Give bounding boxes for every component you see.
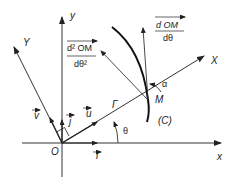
first-derivative-label: d OM dθ [155,17,185,43]
point-M-label: M [155,94,164,105]
svg-text:v: v [34,110,40,121]
polar-frame-diagram: x y X Y i j u v O θ Γ (C) [0,0,233,182]
svg-text:d OM: d OM [156,20,179,30]
alpha-label: α [162,79,167,89]
second-derivative-label: d² OM dθ² [67,41,97,69]
x-axis-label: x [216,151,223,162]
label-u: u [83,108,92,119]
theta-arc [114,122,118,143]
svg-text:d² OM: d² OM [67,43,92,53]
Y-axis-label: Y [23,37,31,48]
svg-text:dθ²: dθ² [74,59,87,69]
vector-v [50,118,62,143]
label-j: j [66,115,74,127]
X-axis-label: X [210,55,218,66]
svg-text:j: j [67,116,72,127]
label-i: i [93,150,101,161]
svg-text:dθ: dθ [163,33,173,43]
second-derivative-vector [101,51,148,100]
origin-label: O [51,146,59,157]
y-axis-label: y [69,10,76,21]
theta-label: θ [123,126,128,136]
curve-label: (C) [158,115,172,126]
svg-text:u: u [86,108,92,119]
label-v: v [32,110,40,121]
